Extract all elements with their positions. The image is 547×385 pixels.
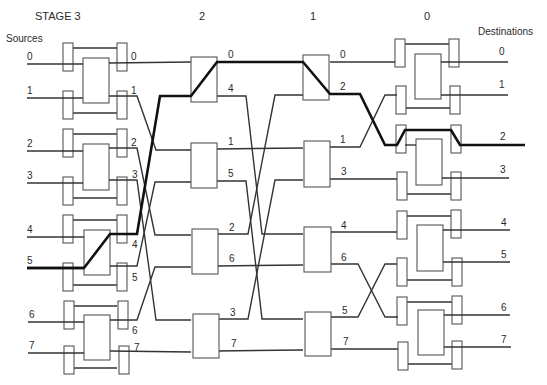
source-4-label: 4	[27, 224, 33, 235]
sources-label: Sources	[6, 33, 43, 44]
s2-out-6: 3	[230, 307, 236, 318]
stage-0-switch-2	[397, 210, 462, 286]
stage-0-switch-3	[397, 296, 462, 370]
stage-1-switch-1	[304, 141, 330, 187]
dest-3-label: 3	[500, 164, 506, 175]
source-7-label: 7	[29, 340, 35, 351]
s2-out-0: 0	[228, 49, 234, 60]
dest-6-label: 6	[501, 302, 507, 313]
s2-out-4: 2	[229, 222, 235, 233]
stage-2-switches	[191, 57, 219, 358]
dest-1-label: 1	[499, 79, 505, 90]
stage-3-switch-0	[63, 43, 127, 119]
s1-out-0: 0	[340, 49, 346, 60]
stage-3-label: STAGE 3	[35, 10, 81, 22]
dest-5-label: 5	[501, 249, 507, 260]
s2-out-7: 7	[231, 338, 237, 349]
s1-out-6: 5	[342, 305, 348, 316]
stage-2-switch-2	[192, 229, 218, 274]
dest-4-label: 4	[501, 217, 507, 228]
stage-1-label: 1	[310, 10, 316, 22]
shuffle-exchange-network-diagram: STAGE 3 2 1 0 Sources Destinations	[0, 0, 547, 385]
s3-out-2: 2	[131, 137, 137, 148]
source-2-label: 2	[27, 138, 33, 149]
s2-out-5: 6	[229, 253, 235, 264]
stage-2-output-labels: 0 4 1 5 2 6 3 7	[228, 49, 237, 349]
s1-out-5: 6	[341, 252, 347, 263]
stage-2-label: 2	[199, 10, 205, 22]
source-labels: 0 1 2 3 4 5 6 7	[27, 51, 35, 351]
s2-out-2: 1	[228, 136, 234, 147]
dest-2-label: 2	[500, 131, 506, 142]
stage-2-switch-1	[191, 143, 217, 188]
destinations-label: Destinations	[478, 26, 533, 37]
stage-1-switches	[303, 55, 331, 356]
stage-1-switch-2	[304, 227, 331, 272]
source-3-label: 3	[27, 170, 33, 181]
stage-0-switch-1	[396, 125, 461, 200]
source-5-label: 5	[27, 255, 33, 266]
stage-0-switch-0	[395, 39, 460, 114]
s3-out-6: 6	[132, 325, 138, 336]
s1-out-4: 4	[341, 220, 347, 231]
s3-out-1: 1	[131, 85, 137, 96]
wires	[27, 62, 511, 353]
s3-out-3: 3	[132, 169, 138, 180]
stage-2-switch-3	[193, 314, 219, 358]
s1-out-1: 2	[340, 81, 346, 92]
s3-out-7: 7	[134, 342, 140, 353]
stage-labels: STAGE 3 2 1 0	[35, 10, 430, 22]
s3-out-4: 4	[132, 239, 138, 250]
stage-0-label: 0	[424, 10, 430, 22]
s1-out-2: 1	[340, 134, 346, 145]
s2-out-3: 5	[228, 168, 234, 179]
stage-0-switches	[395, 39, 462, 370]
dest-7-label: 7	[501, 334, 507, 345]
stage-1-switch-3	[305, 312, 331, 356]
source-6-label: 6	[29, 309, 35, 320]
s1-out-3: 3	[341, 166, 347, 177]
stage-3-switch-3	[64, 301, 129, 374]
source-0-label: 0	[27, 51, 33, 62]
destination-labels: 0 1 2 3 4 5 6 7	[499, 46, 507, 345]
s3-out-0: 0	[131, 51, 137, 62]
s2-out-1: 4	[228, 83, 234, 94]
s1-out-7: 7	[343, 336, 349, 347]
source-1-label: 1	[27, 85, 33, 96]
dest-0-label: 0	[499, 46, 505, 57]
stage-3-switch-1	[63, 129, 127, 205]
stage-3-switches	[63, 43, 129, 374]
s3-out-5: 5	[132, 272, 138, 283]
